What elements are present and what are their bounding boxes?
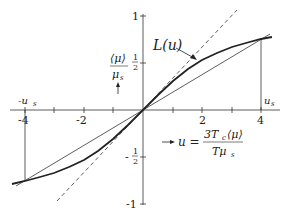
y-tick-label: 1 [132, 10, 139, 23]
y-tick-label: 2 [133, 63, 138, 72]
pos-us-label: u [264, 95, 270, 106]
x-tick-label: -2 [76, 114, 87, 127]
arrow-up-icon [116, 82, 120, 87]
x-label-lhs: u = [178, 135, 200, 149]
y-tick-label: 1 [133, 147, 138, 156]
x-label-denominator: Tμ [212, 145, 227, 158]
curve-label: L(u) [152, 37, 182, 53]
x-tick-label: 4 [257, 114, 264, 127]
langevin-curve [12, 37, 272, 184]
x-label-numerator-sub: c [222, 134, 226, 142]
y-label-numerator: ⟨μ⟩ [110, 52, 126, 65]
y-tick-label: 1 [133, 53, 138, 62]
y-tick-label: 2 [133, 157, 138, 166]
pos-us-label-sub: s [271, 100, 275, 108]
neg-us-label: -u [18, 95, 28, 106]
neg-us-label-sub: s [33, 100, 37, 108]
x-tick-label: -4 [18, 114, 29, 127]
x-label-numerator: 3T [204, 128, 220, 141]
x-tick-label: 2 [199, 114, 206, 127]
x-label-denominator-sub: s [231, 151, 235, 159]
arrow-right-icon [170, 140, 175, 144]
y-tick-label: -1 [126, 198, 137, 211]
langevin-chart: L(u) -4 -2 2 4 1 1 2 - 1 2 -1 ⟨μ⟩ μ s -u… [0, 0, 284, 221]
x-label-numerator-rest: ⟨μ⟩ [227, 128, 243, 141]
y-label-denominator-sub: s [120, 74, 124, 82]
arrowhead-icon [190, 54, 197, 60]
y-tick-label: - [125, 151, 129, 164]
y-label-denominator: μ [112, 68, 119, 81]
